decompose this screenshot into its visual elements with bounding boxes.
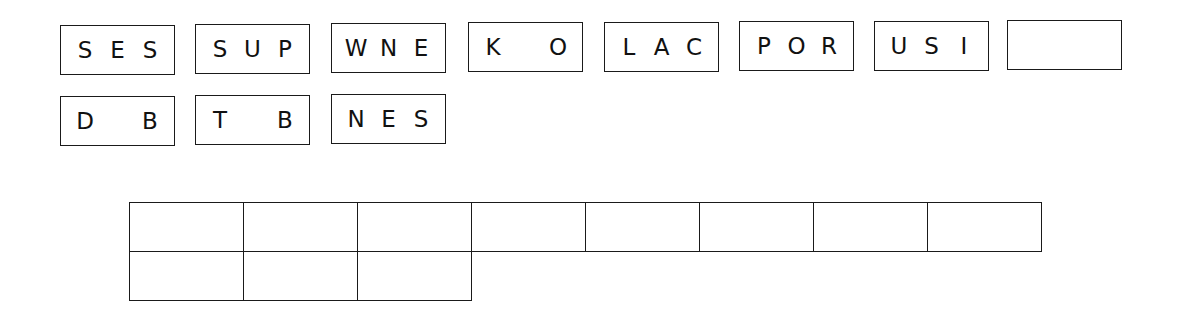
tile-letter: K	[479, 36, 507, 59]
tile-letter: E	[375, 108, 403, 131]
tile-letter: N	[375, 37, 403, 60]
answer-cell[interactable]	[244, 203, 358, 252]
answer-cell[interactable]	[700, 203, 814, 252]
letter-tile-6[interactable]: P O R	[739, 21, 854, 71]
letter-tile-8[interactable]: D B	[60, 96, 175, 146]
answer-grid	[129, 202, 1042, 301]
answer-grid-row	[130, 203, 1042, 252]
answer-grid-row	[130, 252, 1042, 301]
tile-letter: E	[407, 37, 435, 60]
tile-letter: S	[407, 108, 435, 131]
tile-letter: E	[104, 39, 132, 62]
letter-tile-9[interactable]: T B	[195, 95, 310, 145]
grid-spacer	[928, 252, 1042, 301]
tile-letter: U	[885, 35, 913, 58]
tile-letter: B	[271, 109, 299, 132]
letter-tile-empty[interactable]	[1007, 20, 1122, 70]
grid-spacer	[472, 252, 586, 301]
tile-letter: P	[271, 38, 299, 61]
tile-letter: I	[950, 35, 978, 58]
letter-tile-1[interactable]: S E S	[60, 25, 175, 75]
tile-letter: P	[750, 35, 778, 58]
tile-letter: S	[206, 38, 234, 61]
answer-cell[interactable]	[472, 203, 586, 252]
tile-letter: R	[815, 35, 843, 58]
letter-tile-5[interactable]: L A C	[604, 22, 719, 72]
answer-cell[interactable]	[814, 203, 928, 252]
letter-tile-2[interactable]: S U P	[195, 24, 310, 74]
letter-tile-4[interactable]: K O	[468, 22, 583, 72]
tile-letter: T	[206, 109, 234, 132]
tile-letter: O	[544, 36, 572, 59]
tile-letter: S	[71, 39, 99, 62]
answer-cell[interactable]	[358, 203, 472, 252]
answer-cell[interactable]	[928, 203, 1042, 252]
grid-spacer	[814, 252, 928, 301]
tile-letter: U	[239, 38, 267, 61]
tile-letter: B	[136, 110, 164, 133]
letter-tile-3[interactable]: W N E	[331, 23, 446, 73]
answer-cell[interactable]	[244, 252, 358, 301]
tile-letter: S	[918, 35, 946, 58]
tile-letter: S	[136, 39, 164, 62]
grid-spacer	[586, 252, 700, 301]
letter-tile-10[interactable]: N E S	[331, 94, 446, 144]
tile-letter: A	[648, 36, 676, 59]
answer-cell[interactable]	[358, 252, 472, 301]
tile-letter: C	[680, 36, 708, 59]
letter-tile-7[interactable]: U S I	[874, 21, 989, 71]
tile-letter: O	[783, 35, 811, 58]
tile-letter: W	[342, 37, 370, 60]
tile-letter: D	[71, 110, 99, 133]
tile-letter: N	[342, 108, 370, 131]
answer-cell[interactable]	[130, 252, 244, 301]
tile-letter: L	[615, 36, 643, 59]
answer-cell[interactable]	[130, 203, 244, 252]
answer-cell[interactable]	[586, 203, 700, 252]
grid-spacer	[700, 252, 814, 301]
